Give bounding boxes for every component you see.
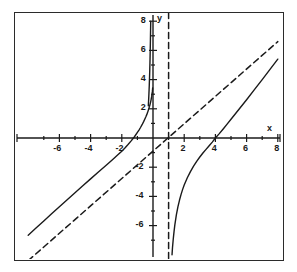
curve-rational-curve-left-branch-upper	[148, 21, 150, 106]
x-tick-label-6: 6	[243, 144, 248, 153]
y-tick-label--6: -6	[136, 220, 144, 229]
y-tick-label-6: 6	[141, 45, 146, 54]
curve-rational-curve-left-branch	[28, 88, 152, 235]
y-tick-label-8: 8	[141, 16, 146, 25]
y-axis-label: y	[157, 14, 162, 23]
plot-canvas	[15, 13, 282, 259]
plot-frame	[14, 12, 284, 261]
x-axis-label: x	[267, 124, 272, 133]
x-tick-label-2: 2	[181, 144, 186, 153]
x-tick-label--2: -2	[116, 144, 124, 153]
x-tick-label--6: -6	[53, 144, 61, 153]
graph-figure: -6-4-224688642-2-4-6xy	[0, 0, 297, 272]
y-tick-label--4: -4	[136, 191, 144, 200]
x-tick-label-4: 4	[212, 144, 217, 153]
y-tick-label-2: 2	[141, 103, 146, 112]
x-tick-label-8: 8	[274, 144, 279, 153]
x-tick-label--4: -4	[84, 144, 92, 153]
y-tick-label--2: -2	[136, 162, 144, 171]
y-tick-label-4: 4	[141, 74, 146, 83]
